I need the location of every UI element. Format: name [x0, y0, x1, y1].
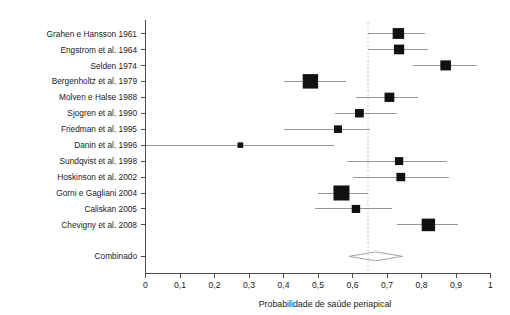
study-label: Chevigny et al. 2008	[61, 220, 137, 230]
study-estimate-marker	[396, 173, 405, 181]
x-axis-tick-label: 0,6	[347, 280, 359, 290]
study-label: Grahen e Hansson 1961	[47, 29, 138, 39]
study-estimate-marker	[355, 109, 364, 117]
study-estimate-marker	[422, 219, 435, 232]
study-estimate-marker	[352, 205, 360, 213]
study-estimate-marker	[395, 157, 403, 165]
study-label: Hoskinson et al. 2002	[57, 172, 137, 182]
study-label: Sjogren et al. 1990	[67, 108, 137, 118]
x-axis-tick-label: 0,1	[174, 280, 186, 290]
x-axis-tick-label: 0,8	[416, 280, 428, 290]
study-estimate-marker	[303, 74, 318, 88]
x-axis-tick-label: 0,3	[243, 280, 255, 290]
study-label: Friedman et al. 1995	[61, 124, 137, 134]
forest-plot-figure: Grahen e Hansson 1961Engstrom et al. 196…	[0, 0, 510, 315]
x-axis-tick-label: 0	[143, 280, 148, 290]
study-label: Danin et al. 1996	[74, 140, 137, 150]
x-axis-tick-label: 0,2	[209, 280, 221, 290]
x-axis-tick-label: 1	[488, 280, 493, 290]
study-label: Sundqvist et al. 1998	[60, 156, 138, 166]
study-estimate-marker	[238, 142, 244, 148]
study-label: Selden 1974	[90, 61, 137, 71]
x-axis-tick-label: 0,9	[450, 280, 462, 290]
study-estimate-marker	[333, 186, 349, 201]
study-estimate-marker	[385, 93, 395, 102]
study-label: Caliskan 2005	[84, 204, 137, 214]
study-estimate-marker	[334, 125, 342, 133]
study-label: Bergenholtz et al. 1979	[52, 76, 138, 86]
study-label: Gorni e Gagliani 2004	[56, 188, 137, 198]
study-estimate-marker	[394, 45, 404, 55]
x-axis-tick-label: 0,7	[381, 280, 393, 290]
study-estimate-marker	[440, 60, 451, 70]
forest-plot-canvas: Grahen e Hansson 1961Engstrom et al. 196…	[0, 0, 510, 315]
x-axis-tick-label: 0,5	[312, 280, 324, 290]
study-label: Molven e Halse 1988	[59, 92, 137, 102]
x-axis-title: Probabilidade de saúde periapical	[259, 299, 392, 309]
study-label: Engstrom et al. 1964	[60, 45, 137, 55]
summary-row-label: Combinado	[95, 251, 138, 261]
x-axis-tick-label: 0,4	[278, 280, 290, 290]
study-estimate-marker	[393, 28, 404, 39]
